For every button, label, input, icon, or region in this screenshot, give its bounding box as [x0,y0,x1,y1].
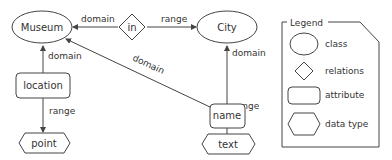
edge-name-museum: domain [66,39,210,107]
legend-item-data-type: data type [288,113,369,135]
edge-in-city: range [147,14,196,27]
edge-location-museum: domain [43,46,82,73]
svg-text:City: City [217,22,237,33]
svg-text:in: in [127,22,136,33]
legend-title: Legend [290,18,323,28]
svg-text:class: class [325,39,348,49]
svg-text:location: location [23,80,63,91]
legend: Legend class relations attribute data ty… [282,18,379,147]
node-text[interactable]: text [202,134,255,154]
svg-text:point: point [31,138,57,149]
svg-text:range: range [49,106,76,116]
edge-location-point: range [43,98,76,132]
ontology-diagram: domain range domain domain domain range … [0,0,392,160]
svg-text:name: name [213,110,241,121]
svg-text:range: range [161,14,188,24]
svg-text:domain: domain [232,48,266,58]
edge-name-city: domain [227,46,266,104]
svg-text:Museum: Museum [21,22,63,33]
node-point[interactable]: point [19,133,70,153]
node-museum[interactable]: Museum [12,11,72,43]
svg-text:domain: domain [48,51,82,61]
node-city[interactable]: City [197,11,257,43]
legend-item-class: class [290,33,348,55]
svg-text:domain: domain [81,14,115,24]
legend-item-relations: relations [295,62,364,80]
svg-text:text: text [218,139,238,150]
svg-text:attribute: attribute [325,90,365,100]
legend-item-attribute: attribute [288,87,365,104]
node-location[interactable]: location [16,73,70,98]
svg-text:data type: data type [325,119,369,129]
edge-in-museum: domain [73,14,118,27]
node-name[interactable]: name [210,104,245,128]
svg-text:relations: relations [325,66,364,76]
node-in[interactable]: in [119,14,145,40]
